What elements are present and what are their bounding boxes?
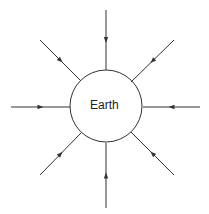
arrowhead-icon — [104, 173, 108, 179]
arrowhead-icon — [38, 105, 44, 109]
earth-label: Earth — [90, 98, 119, 112]
arrow-west — [11, 105, 70, 109]
arrow-north — [104, 10, 108, 70]
arrowhead-icon — [104, 37, 108, 43]
arrow-south — [104, 143, 108, 208]
arrow-northwest — [40, 40, 81, 81]
arrow-northeast — [131, 40, 174, 82]
earth-diagram: Earth — [0, 0, 209, 214]
arrow-southeast — [131, 132, 174, 175]
arrow-east — [143, 105, 200, 109]
arrow-southwest — [40, 133, 81, 175]
arrowhead-icon — [169, 105, 175, 109]
